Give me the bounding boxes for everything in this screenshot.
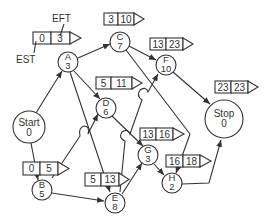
eft-e: 13	[104, 174, 116, 185]
node-c: C 7	[110, 31, 130, 52]
node-a: A 3	[58, 51, 78, 72]
timebox-f: 13 23	[150, 38, 193, 50]
est-f: 13	[152, 39, 164, 50]
est-c: 3	[108, 14, 114, 25]
node-start: Start 0	[13, 111, 45, 143]
node-e: E 8	[105, 192, 125, 213]
node-g-duration: 3	[145, 153, 150, 164]
edge-g-h	[154, 164, 164, 175]
node-h: H 2	[162, 172, 182, 193]
node-h-duration: 2	[169, 181, 174, 192]
eft-b: 5	[46, 163, 52, 174]
network-diagram: 0 3 EFT EST 3 10 5 11 13 23 23 23 0	[0, 0, 280, 223]
edge-f-stop	[173, 72, 210, 104]
est-a: 0	[39, 33, 45, 44]
node-start-duration: 0	[26, 127, 32, 138]
node-f-duration: 10	[161, 63, 172, 74]
eft-legend-label: EFT	[52, 13, 71, 24]
timebox-a: 0 3	[33, 32, 81, 44]
node-b-duration: 5	[39, 188, 44, 199]
timebox-g: 13 16	[140, 128, 184, 140]
edge-a-c	[78, 44, 110, 58]
timebox-b: 0 5	[23, 162, 69, 175]
timebox-e: 5 13	[85, 173, 129, 186]
eft-stop: 23	[234, 82, 246, 93]
est-g: 13	[142, 129, 154, 140]
timebox-stop: 23 23	[215, 81, 258, 93]
est-d: 5	[101, 78, 107, 89]
eft-g: 16	[159, 129, 171, 140]
edge-start-a	[36, 71, 62, 113]
timebox-d: 5 11	[96, 77, 142, 89]
node-c-duration: 7	[117, 40, 122, 51]
est-legend-label: EST	[16, 54, 35, 65]
edge-b-e	[52, 193, 104, 201]
node-d-duration: 6	[103, 106, 108, 117]
eft-c: 10	[120, 14, 132, 25]
node-g: G 3	[138, 144, 158, 165]
est-h: 16	[169, 156, 181, 167]
est-e: 5	[90, 174, 96, 185]
eft-h: 18	[186, 156, 198, 167]
node-stop: Stop 0	[205, 100, 243, 138]
node-f: F 10	[156, 54, 176, 75]
est-stop: 23	[217, 82, 229, 93]
node-a-duration: 3	[65, 60, 70, 71]
node-stop-duration: 0	[221, 118, 227, 129]
timebox-h: 16 18	[166, 155, 211, 167]
timebox-c: 3 10	[104, 13, 144, 25]
est-b: 0	[29, 163, 35, 174]
node-e-duration: 8	[112, 201, 117, 212]
eft-f: 23	[169, 39, 181, 50]
eft-d: 11	[116, 78, 127, 89]
node-b: B 5	[32, 179, 52, 200]
node-d: D 6	[96, 97, 116, 118]
